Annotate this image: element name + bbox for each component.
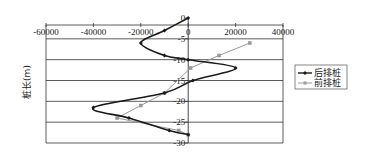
- y-tick-label: -20: [173, 96, 185, 106]
- y-tick-label: -5: [178, 34, 186, 44]
- x-tick-label: -60000: [33, 27, 59, 37]
- square-marker: [217, 54, 221, 58]
- legend-label: 后排桩: [314, 67, 341, 78]
- square-marker: [139, 104, 143, 108]
- series-line-后排桩: [93, 18, 236, 135]
- square-marker: [189, 66, 193, 70]
- legend-square-marker: [304, 82, 307, 85]
- diamond-marker: [186, 58, 190, 62]
- x-tick-label: -40000: [81, 27, 107, 37]
- diamond-marker: [127, 116, 131, 120]
- y-tick-label: -30: [173, 138, 185, 148]
- square-marker: [248, 41, 252, 45]
- diamond-marker: [163, 54, 167, 58]
- x-tick-label: 40000: [272, 27, 295, 37]
- y-tick-label: -25: [173, 117, 185, 127]
- diamond-marker: [191, 79, 195, 83]
- x-tick-label: -20000: [128, 27, 154, 37]
- x-tick-label: 0: [186, 27, 191, 37]
- legend: 后排桩前排桩: [295, 65, 347, 89]
- y-axis-label: 桩长(m): [21, 65, 32, 99]
- square-marker: [115, 116, 119, 120]
- x-tick-label: 20000: [224, 27, 247, 37]
- line-chart: -60000-40000-20000020000400000-5-10-15-2…: [0, 0, 365, 160]
- legend-label: 前排桩: [314, 77, 341, 88]
